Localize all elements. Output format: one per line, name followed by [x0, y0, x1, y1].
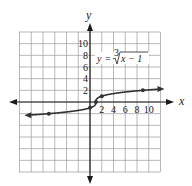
x-tick-label: 8: [135, 104, 140, 115]
x-tick-label: 10: [144, 104, 154, 115]
y-tick-label: 2: [83, 85, 88, 96]
data-point: [141, 88, 145, 92]
data-point: [100, 94, 104, 98]
y-tick-label: 4: [83, 73, 88, 84]
equation-radicand: x − 1: [120, 53, 142, 64]
x-axis-label: x: [178, 94, 185, 108]
curve-arrow-right-icon: [158, 86, 165, 92]
data-point: [88, 106, 92, 110]
labels: 246810246810xyy=3x − 1: [78, 8, 185, 115]
x-tick-label: 6: [123, 104, 128, 115]
y-axis-arrow-down-icon: [87, 176, 93, 184]
y-tick-label: 10: [78, 38, 88, 49]
x-tick-label: 2: [99, 104, 104, 115]
curve-arrow-left-icon: [24, 112, 31, 118]
y-axis-arrow-up-icon: [87, 23, 93, 31]
x-axis-arrow-left-icon: [9, 99, 17, 105]
cube-root-graph: 246810246810xyy=3x − 1: [0, 0, 192, 186]
y-axis-label: y: [85, 8, 92, 22]
x-axis-arrow-right-icon: [166, 99, 174, 105]
data-point: [47, 112, 51, 116]
radical-index: 3: [114, 47, 119, 58]
x-tick-label: 4: [111, 104, 116, 115]
y-tick-label: 6: [83, 62, 88, 73]
equation-lhs: y: [96, 53, 102, 64]
data-point: [94, 100, 98, 104]
y-tick-label: 8: [83, 50, 88, 61]
equation-equals: =: [105, 53, 111, 64]
